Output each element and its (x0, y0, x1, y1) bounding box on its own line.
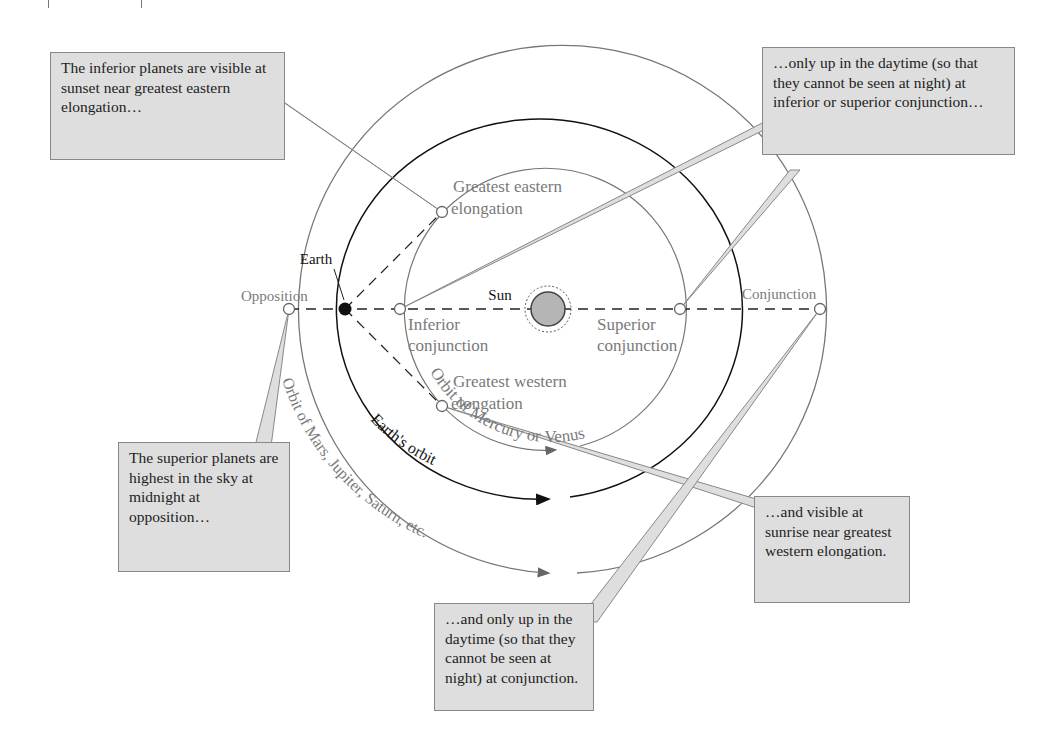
sun-label: Sun (488, 287, 512, 303)
callout-western-elongation: …and visible at sunrise near greatest we… (754, 496, 910, 603)
opposition-label: Opposition (241, 288, 308, 304)
callout-eastern-elongation: The inferior planets are visible at suns… (50, 52, 285, 160)
callout-inferior-superior-conjunction-text: …only up in the daytime (so that they ca… (773, 54, 983, 110)
superior-conjunction-label-line1: Superior (597, 315, 656, 334)
conjunction-label: Conjunction (742, 286, 817, 302)
inferior-conjunction-label-line2: conjunction (408, 336, 489, 355)
greatest-western-label-line1: Greatest western (453, 372, 567, 391)
callout-opposition: The superior planets are highest in the … (118, 442, 290, 572)
outer-orbit-label: Orbit of Mars, Jupiter, Saturn, etc. (279, 375, 431, 540)
inferior-conjunction-marker (395, 304, 406, 315)
earth-label: Earth (300, 251, 333, 267)
superior-conjunction-label-line2: conjunction (597, 336, 678, 355)
earth-label-leader (334, 269, 344, 300)
earth-orbit-label: Earth's orbit (368, 410, 440, 468)
callout-conjunction: …and only up in the daytime (so that the… (434, 603, 594, 711)
opposition-marker (284, 304, 295, 315)
inferior-conjunction-label-line1: Inferior (408, 315, 460, 334)
callout-conjunction-text: …and only up in the daytime (so that the… (445, 610, 578, 686)
conjunction-marker (815, 304, 826, 315)
greatest-western-elongation-marker (437, 401, 448, 412)
superior-conjunction-marker (675, 304, 686, 315)
sun-icon (525, 286, 571, 332)
callout-eastern-elongation-text: The inferior planets are visible at suns… (61, 59, 266, 115)
callout-western-elongation-text: …and visible at sunrise near greatest we… (765, 503, 892, 559)
greatest-eastern-label-line2: elongation (451, 199, 523, 218)
earth-marker (339, 303, 352, 316)
greatest-eastern-elongation-marker (437, 207, 448, 218)
greatest-eastern-label-line1: Greatest eastern (453, 177, 563, 196)
callout-inferior-superior-conjunction: …only up in the daytime (so that they ca… (762, 47, 1015, 155)
callout-opposition-text: The superior planets are highest in the … (129, 449, 278, 525)
